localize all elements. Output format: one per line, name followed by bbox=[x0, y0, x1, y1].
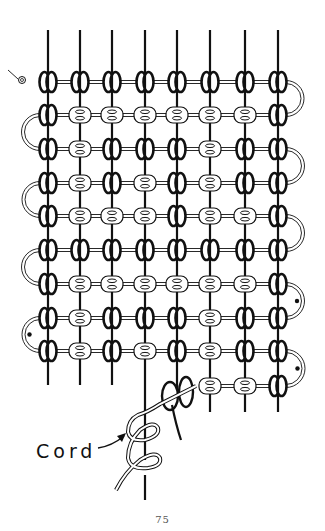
vertical-knot bbox=[169, 173, 186, 193]
horizontal-knot bbox=[234, 378, 256, 394]
horizontal-knot bbox=[69, 141, 91, 157]
vertical-knot bbox=[169, 206, 186, 226]
horizontal-knot bbox=[101, 208, 123, 224]
vertical-knot bbox=[169, 308, 186, 328]
horizontal-knot bbox=[234, 276, 256, 292]
horizontal-knot bbox=[134, 276, 156, 292]
vertical-knot bbox=[237, 139, 254, 159]
horizontal-knot bbox=[69, 343, 91, 359]
vertical-knot bbox=[137, 139, 154, 159]
vertical-knot bbox=[72, 72, 89, 92]
vertical-knot bbox=[104, 72, 121, 92]
vertical-knot bbox=[270, 240, 287, 260]
horizontal-knot bbox=[234, 107, 256, 123]
horizontal-knot bbox=[69, 175, 91, 191]
vertical-knot bbox=[237, 72, 254, 92]
vertical-knot bbox=[202, 240, 219, 260]
strand-end bbox=[172, 405, 181, 440]
vertical-knot bbox=[104, 139, 121, 159]
vertical-knot bbox=[237, 173, 254, 193]
edge-loop bbox=[286, 151, 302, 182]
horizontal-knot bbox=[69, 107, 91, 123]
horizontal-knot bbox=[199, 107, 221, 123]
horizontal-knot bbox=[134, 107, 156, 123]
horizontal-knot bbox=[199, 208, 221, 224]
vertical-knot bbox=[137, 72, 154, 92]
edge-loop bbox=[25, 320, 40, 350]
knots bbox=[40, 72, 287, 396]
edge-loops bbox=[22, 81, 306, 388]
horizontal-knot bbox=[199, 378, 221, 394]
vertical-knot bbox=[72, 240, 89, 260]
page-number: 75 bbox=[0, 514, 325, 525]
vertical-knot bbox=[270, 173, 287, 193]
horizontal-knot bbox=[199, 276, 221, 292]
vertical-knot bbox=[40, 72, 57, 92]
horizontal-knot bbox=[234, 208, 256, 224]
horizontal-knot bbox=[134, 343, 156, 359]
dot-marker bbox=[295, 366, 299, 370]
vertical-knot bbox=[104, 173, 121, 193]
vertical-knot bbox=[270, 274, 287, 294]
edge-loop bbox=[286, 84, 301, 114]
horizontal-knot bbox=[166, 107, 188, 123]
vertical-knot bbox=[40, 308, 57, 328]
vertical-knot bbox=[169, 72, 186, 92]
vertical-knot bbox=[40, 105, 57, 125]
vertical-knot bbox=[40, 139, 57, 159]
vertical-knot bbox=[237, 240, 254, 260]
vertical-knot bbox=[270, 341, 287, 361]
vertical-strands bbox=[48, 30, 278, 500]
working-cord-outline bbox=[116, 386, 196, 490]
vertical-knot bbox=[40, 341, 57, 361]
horizontal-knot bbox=[199, 175, 221, 191]
vertical-knot bbox=[104, 341, 121, 361]
vertical-knot bbox=[270, 376, 287, 396]
horizontal-knot bbox=[134, 208, 156, 224]
dot-marker bbox=[27, 332, 31, 336]
vertical-knot bbox=[137, 240, 154, 260]
horizontal-knot bbox=[69, 310, 91, 326]
edge-loop bbox=[24, 252, 40, 283]
vertical-knot bbox=[270, 308, 287, 328]
edge-loop bbox=[25, 117, 40, 148]
edge-loop bbox=[25, 185, 40, 215]
edge-loop bbox=[286, 218, 301, 249]
dot-marker bbox=[295, 299, 299, 303]
vertical-knot bbox=[270, 206, 287, 226]
vertical-knot bbox=[40, 206, 57, 226]
vertical-knot bbox=[270, 72, 287, 92]
horizontal-knot bbox=[199, 141, 221, 157]
vertical-knot bbox=[237, 308, 254, 328]
cord-start-coil bbox=[19, 77, 26, 84]
vertical-knot bbox=[169, 139, 186, 159]
horizontal-knot bbox=[101, 276, 123, 292]
horizontal-knot bbox=[199, 343, 221, 359]
vertical-knot bbox=[40, 173, 57, 193]
vertical-knot bbox=[137, 308, 154, 328]
horizontal-knot bbox=[166, 276, 188, 292]
vertical-knot bbox=[169, 240, 186, 260]
vertical-knot bbox=[270, 139, 287, 159]
cord-label: Cord bbox=[36, 440, 96, 462]
vertical-knot bbox=[270, 105, 287, 125]
horizontal-knot bbox=[69, 276, 91, 292]
horizontal-knot bbox=[69, 208, 91, 224]
horizontal-knot bbox=[134, 175, 156, 191]
vertical-knot bbox=[104, 308, 121, 328]
vertical-knot bbox=[104, 240, 121, 260]
vertical-knot bbox=[40, 240, 57, 260]
vertical-knot bbox=[40, 274, 57, 294]
horizontal-knot bbox=[101, 107, 123, 123]
vertical-knot bbox=[169, 341, 186, 361]
vertical-knot bbox=[202, 72, 219, 92]
cord-start-coil bbox=[21, 79, 24, 82]
horizontal-knot bbox=[199, 310, 221, 326]
vertical-knot bbox=[237, 341, 254, 361]
cord-start bbox=[8, 70, 18, 79]
